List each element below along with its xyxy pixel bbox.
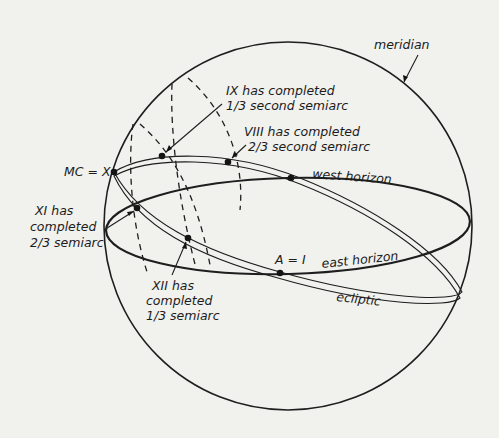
label-west-horizon: west horizon xyxy=(312,166,393,187)
ascendant-point xyxy=(277,270,284,277)
viii-point xyxy=(225,159,232,166)
label-xi-1: XI has xyxy=(34,203,74,218)
label-viii-2: 2/3 second semiarc xyxy=(248,139,370,154)
xi-point xyxy=(134,205,141,212)
label-xii-1: XII has xyxy=(151,278,194,293)
xii-point xyxy=(185,235,192,242)
label-ix-1: IX has completed xyxy=(226,83,335,98)
label-xi-3: 2/3 semiarc xyxy=(30,235,104,250)
ix-point xyxy=(159,153,166,160)
west-horizon-point xyxy=(288,175,295,182)
celestial-sphere-diagram: meridian IX has completed 1/3 second sem… xyxy=(0,0,499,438)
label-xi-2: completed xyxy=(30,219,96,234)
label-viii-1: VIII has completed xyxy=(244,124,360,139)
label-ecliptic: ecliptic xyxy=(336,289,382,309)
label-xii-2: completed xyxy=(146,293,212,308)
label-xii-3: 1/3 semiarc xyxy=(146,308,220,323)
label-mc: MC = X xyxy=(64,164,111,179)
label-meridian: meridian xyxy=(374,37,430,52)
label-ascendant: A = I xyxy=(274,252,306,267)
label-ix-2: 1/3 second semiarc xyxy=(226,98,348,113)
mc-point xyxy=(111,169,118,176)
